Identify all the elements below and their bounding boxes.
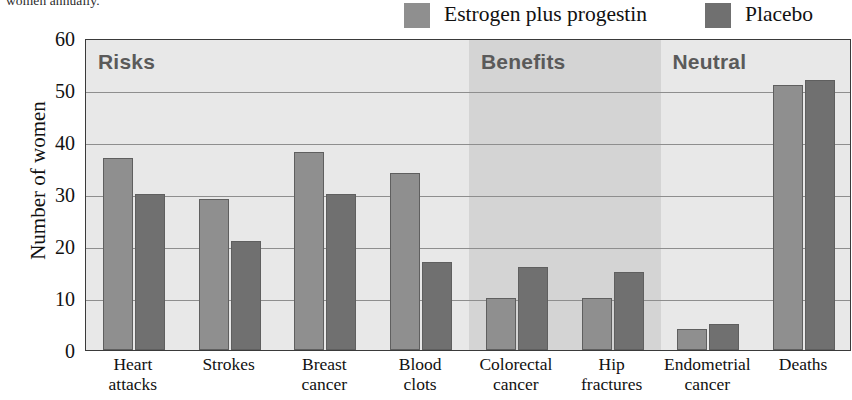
- plot-area-wrapper: RisksBenefitsNeutral 0102030405060: [85, 39, 851, 351]
- y-tick-label-10: 10: [55, 288, 75, 311]
- zone-label-neutral: Neutral: [673, 50, 747, 74]
- bar-endometrial-cancer-estrogen-plus-progestin: [677, 329, 707, 350]
- x-axis-label-heart-attacks: Heartattacks: [109, 354, 158, 394]
- legend-item-1: Estrogen plus progestin: [404, 3, 647, 28]
- x-axis-label-strokes: Strokes: [202, 354, 255, 374]
- bar-deaths-placebo: [805, 80, 835, 350]
- caption-fragment-clip: women annually.: [0, 0, 200, 13]
- x-axis-label-line: attacks: [109, 374, 158, 394]
- y-tick-label-20: 20: [55, 236, 75, 259]
- x-axis-label-colorectal-cancer: Colorectalcancer: [479, 354, 552, 394]
- legend-swatch-estrogen: [404, 3, 430, 28]
- y-tick-label-0: 0: [65, 340, 75, 363]
- x-axis-label-line: Blood: [399, 354, 442, 374]
- bar-strokes-estrogen-plus-progestin: [199, 199, 229, 350]
- chart-legend: Estrogen plus progestinPlacebo: [400, 0, 852, 30]
- x-axis-label-breast-cancer: Breastcancer: [302, 354, 348, 394]
- bar-hip-fractures-placebo: [614, 272, 644, 350]
- zone-label-benefits: Benefits: [481, 50, 565, 74]
- x-axis-label-line: cancer: [302, 374, 348, 394]
- bars-layer: [86, 40, 850, 350]
- x-axis-label-line: fractures: [581, 374, 642, 394]
- bar-deaths-estrogen-plus-progestin: [773, 85, 803, 350]
- y-tick-label-30: 30: [55, 184, 75, 207]
- bar-heart-attacks-placebo: [135, 194, 165, 350]
- x-axis-label-hip-fractures: Hipfractures: [581, 354, 642, 394]
- y-tick-label-50: 50: [55, 80, 75, 103]
- bar-blood-clots-placebo: [422, 262, 452, 350]
- bar-breast-cancer-placebo: [326, 194, 356, 350]
- legend-swatch-placebo: [705, 3, 731, 28]
- x-axis-label-line: clots: [399, 374, 442, 394]
- x-axis-label-line: Breast: [302, 354, 348, 374]
- y-axis-title: Number of women: [26, 51, 51, 311]
- x-axis-label-blood-clots: Bloodclots: [399, 354, 442, 394]
- x-axis-label-line: cancer: [479, 374, 552, 394]
- bar-blood-clots-estrogen-plus-progestin: [390, 173, 420, 350]
- x-axis-labels: HeartattacksStrokesBreastcancerBloodclot…: [85, 354, 851, 400]
- x-axis-label-line: Heart: [109, 354, 158, 374]
- x-axis-label-line: Strokes: [202, 354, 255, 374]
- bar-heart-attacks-estrogen-plus-progestin: [103, 158, 133, 350]
- bar-colorectal-cancer-placebo: [518, 267, 548, 350]
- x-axis-label-line: cancer: [664, 374, 751, 394]
- legend-item-2: Placebo: [705, 3, 813, 28]
- x-axis-label-deaths: Deaths: [779, 354, 828, 374]
- bar-breast-cancer-estrogen-plus-progestin: [294, 152, 324, 350]
- plot-area: RisksBenefitsNeutral: [85, 39, 851, 351]
- y-tick-label-60: 60: [55, 28, 75, 51]
- x-axis-label-endometrial-cancer: Endometrialcancer: [664, 354, 751, 394]
- x-axis-label-line: Colorectal: [479, 354, 552, 374]
- x-axis-label-line: Endometrial: [664, 354, 751, 374]
- x-axis-label-line: Deaths: [779, 354, 828, 374]
- bar-endometrial-cancer-placebo: [709, 324, 739, 350]
- caption-fragment: women annually.: [6, 0, 100, 9]
- bar-hip-fractures-estrogen-plus-progestin: [582, 298, 612, 350]
- y-tick-label-40: 40: [55, 132, 75, 155]
- bar-strokes-placebo: [231, 241, 261, 350]
- legend-label-2: Placebo: [745, 4, 813, 26]
- zone-label-risks: Risks: [98, 50, 155, 74]
- bar-colorectal-cancer-estrogen-plus-progestin: [486, 298, 516, 350]
- x-axis-label-line: Hip: [581, 354, 642, 374]
- legend-label-1: Estrogen plus progestin: [444, 4, 647, 26]
- chart-figure: women annually. Estrogen plus progestinP…: [0, 0, 852, 400]
